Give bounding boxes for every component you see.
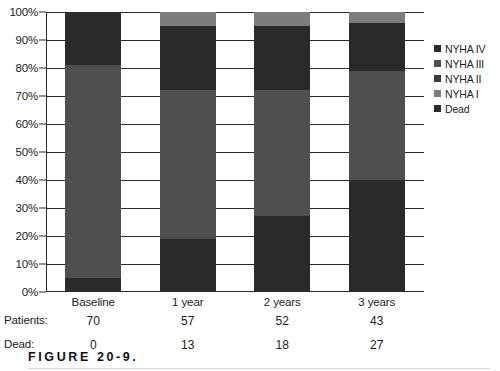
- bar-segment: [65, 278, 121, 292]
- legend-label: NYHA I: [445, 88, 479, 100]
- bar-segment: [349, 23, 405, 71]
- data-row-cell: 70: [46, 314, 141, 328]
- y-tick-label: 40%: [16, 174, 38, 186]
- data-row: Patients:70575243: [0, 314, 430, 334]
- x-tick-label: 1 year: [141, 296, 236, 308]
- chart-legend: NYHA IVNYHA IIINYHA IINYHA IDead: [434, 42, 500, 117]
- data-row-cell: 57: [141, 314, 236, 328]
- y-tick-mark: [39, 180, 46, 181]
- bar-segment: [65, 12, 121, 65]
- y-tick-mark: [39, 236, 46, 237]
- legend-swatch-icon: [434, 90, 441, 97]
- bar-segment: [254, 90, 310, 216]
- legend-item[interactable]: Dead: [434, 102, 500, 116]
- y-tick-label: 10%: [16, 258, 38, 270]
- x-tick-label: 2 years: [235, 296, 330, 308]
- legend-item[interactable]: NYHA I: [434, 87, 500, 101]
- data-row-cell: 18: [235, 338, 330, 352]
- x-tick-label: Baseline: [46, 296, 141, 308]
- bar-segment: [160, 90, 216, 238]
- legend-swatch-icon: [434, 45, 441, 52]
- x-axis-labels: Baseline1 year2 years3 years: [46, 296, 424, 316]
- y-tick-mark: [39, 40, 46, 41]
- bar-segment: [349, 12, 405, 23]
- y-tick-mark: [39, 68, 46, 69]
- data-row-header: Dead:: [4, 338, 34, 350]
- y-tick-label: 90%: [16, 34, 38, 46]
- bar-segment: [254, 26, 310, 90]
- data-row-cell: 27: [330, 338, 425, 352]
- y-tick-label: 50%: [16, 146, 38, 158]
- bar-group: [46, 12, 424, 292]
- bar-segment: [160, 239, 216, 292]
- bar-segment: [160, 12, 216, 26]
- bar-stack[interactable]: [254, 12, 310, 292]
- y-tick-mark: [39, 264, 46, 265]
- legend-label: Dead: [445, 103, 470, 115]
- legend-label: NYHA IV: [445, 43, 485, 55]
- y-tick-label: 60%: [16, 118, 38, 130]
- bar-segment: [254, 216, 310, 292]
- y-tick-mark: [39, 208, 46, 209]
- y-tick-label: 30%: [16, 202, 38, 214]
- y-tick-mark: [39, 96, 46, 97]
- data-row-cell: 13: [141, 338, 236, 352]
- bar-stack[interactable]: [349, 12, 405, 292]
- bar-stack[interactable]: [160, 12, 216, 292]
- bar-stack[interactable]: [65, 12, 121, 292]
- y-tick-label: 70%: [16, 90, 38, 102]
- bar-segment: [349, 180, 405, 292]
- bar-segment: [254, 12, 310, 26]
- bar-segment: [65, 65, 121, 278]
- legend-swatch-icon: [434, 105, 441, 112]
- legend-label: NYHA III: [445, 58, 484, 70]
- legend-swatch-icon: [434, 75, 441, 82]
- y-tick-mark: [39, 152, 46, 153]
- y-tick-mark: [39, 12, 46, 13]
- y-tick-mark: [39, 292, 46, 293]
- figure-container: 100%90%80%70%60%50%40%30%20%10%0% Baseli…: [0, 0, 500, 371]
- legend-swatch-icon: [434, 60, 441, 67]
- x-tick-label: 3 years: [330, 296, 425, 308]
- y-tick-label: 80%: [16, 62, 38, 74]
- data-row-cell: 52: [235, 314, 330, 328]
- y-tick-label: 0%: [22, 286, 38, 298]
- y-axis: 100%90%80%70%60%50%40%30%20%10%0%: [0, 12, 46, 292]
- figure-caption: FIGURE 20-9.: [28, 350, 138, 364]
- y-tick-mark: [39, 124, 46, 125]
- data-row-header: Patients:: [4, 314, 48, 326]
- legend-item[interactable]: NYHA IV: [434, 42, 500, 56]
- y-tick-label: 100%: [9, 6, 38, 18]
- caption-divider: [28, 368, 490, 369]
- legend-label: NYHA II: [445, 73, 481, 85]
- y-tick-label: 20%: [16, 230, 38, 242]
- legend-item[interactable]: NYHA III: [434, 57, 500, 71]
- bar-segment: [160, 26, 216, 90]
- data-row-cell: 43: [330, 314, 425, 328]
- bar-segment: [349, 71, 405, 180]
- chart-plot-area: 100%90%80%70%60%50%40%30%20%10%0% Baseli…: [0, 0, 430, 300]
- legend-item[interactable]: NYHA II: [434, 72, 500, 86]
